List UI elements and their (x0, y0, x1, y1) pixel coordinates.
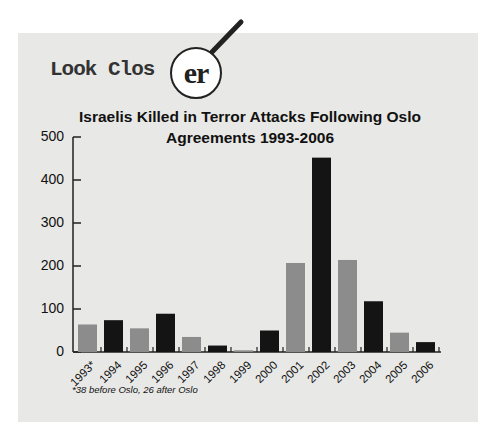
bar-1999 (234, 350, 253, 352)
bar-1993 (78, 324, 97, 352)
x-tick-label: 1999 (227, 359, 254, 386)
bar-2002 (312, 158, 331, 352)
bar-2005 (390, 333, 409, 352)
bar-1995 (130, 328, 149, 352)
x-tick-label: 2004 (357, 358, 384, 385)
bar-chart: 1993*19941995199619971998199920002001200… (0, 0, 498, 442)
x-tick-label: 2005 (383, 359, 410, 386)
y-tick-label: 200 (34, 257, 64, 273)
x-tick-label: 2002 (305, 359, 332, 386)
y-tick-label: 400 (34, 171, 64, 187)
bar-2001 (286, 263, 305, 352)
bar-1996 (156, 314, 175, 352)
bar-2003 (338, 260, 357, 352)
footnote: *38 before Oslo, 26 after Oslo (72, 384, 198, 395)
y-tick-label: 300 (34, 214, 64, 230)
bar-1997 (182, 337, 201, 352)
bar-1994 (104, 320, 123, 352)
bar-2000 (260, 331, 279, 353)
x-tick-label: 2006 (409, 359, 436, 386)
bar-1998 (208, 346, 227, 352)
bar-2006 (416, 342, 435, 352)
y-tick-label: 100 (34, 300, 64, 316)
x-tick-label: 1996 (149, 359, 176, 386)
y-tick-label: 500 (34, 128, 64, 144)
y-tick-label: 0 (34, 343, 64, 359)
x-tick-label: 1998 (201, 359, 228, 386)
bar-2004 (364, 301, 383, 352)
x-tick-label: 2000 (253, 359, 280, 386)
x-tick-label: 2001 (279, 359, 306, 386)
x-tick-label: 1997 (175, 359, 202, 386)
x-tick-label: 2003 (331, 359, 358, 386)
x-tick-label: 1995 (123, 359, 150, 386)
x-tick-label: 1994 (97, 358, 124, 385)
